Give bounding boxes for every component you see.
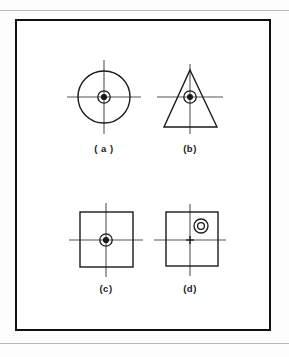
panel-a: ( a ) xyxy=(67,60,141,154)
page-rule-bottom xyxy=(0,343,289,344)
panel-d: (d) xyxy=(154,204,226,294)
marker-ring-inner-d xyxy=(198,223,205,230)
panel-caption-d: (d) xyxy=(183,283,197,294)
panel-caption-a: ( a ) xyxy=(94,143,113,154)
page-canvas: ( a ) (b) (c) xyxy=(0,0,289,357)
marker-core-c xyxy=(103,237,109,243)
marker-core-a xyxy=(101,94,107,100)
panel-c: (c) xyxy=(69,203,143,294)
square-outline-d xyxy=(166,212,218,266)
panel-b: (b) xyxy=(157,64,223,154)
marker-ring-outer-d xyxy=(194,219,208,233)
marker-core-b xyxy=(187,94,193,100)
page-rule-top xyxy=(0,10,289,11)
figure-illustration: ( a ) (b) (c) xyxy=(17,21,273,333)
panel-caption-c: (c) xyxy=(99,283,112,294)
figure-frame: ( a ) (b) (c) xyxy=(15,19,271,331)
panel-caption-b: (b) xyxy=(183,143,197,154)
